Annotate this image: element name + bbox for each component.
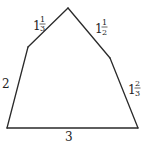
label-right: 1 2 3: [128, 79, 141, 98]
label-top-right-numerator: 1: [102, 18, 107, 27]
label-top-right-denominator: 2: [102, 28, 107, 37]
label-top-left-numerator: 1: [40, 15, 45, 24]
label-left: 2: [2, 77, 10, 91]
label-top-left-denominator: 3: [40, 24, 45, 33]
label-right-numerator: 2: [135, 79, 140, 88]
label-top-left: 1 1 3: [33, 15, 46, 33]
side-left: [7, 47, 28, 128]
label-bottom: 3: [65, 130, 73, 143]
pentagon-diagram: 1 1 3 1 1 2 1 2 3 3 2: [0, 0, 147, 143]
label-right-denominator: 3: [135, 89, 140, 98]
label-top-right: 1 1 2: [95, 18, 108, 37]
